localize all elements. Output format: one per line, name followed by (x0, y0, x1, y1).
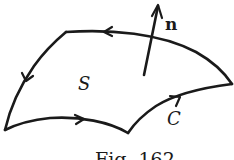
figure-caption: Fig. 162 (95, 148, 175, 160)
curve-c-bottom-edge (5, 118, 128, 133)
curve-label: C (167, 108, 181, 129)
curve-c-left-edge (5, 32, 66, 130)
surface-label: S (78, 73, 90, 94)
stokes-surface-diagram: n S C Fig. 162 (0, 0, 234, 160)
curve-c-top-edge (66, 31, 232, 84)
normal-label: n (165, 14, 177, 34)
